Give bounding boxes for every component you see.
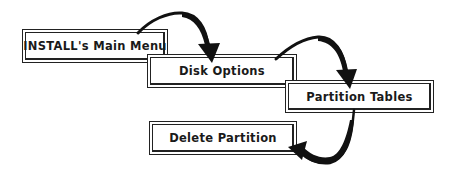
node-label: INSTALL's Main Menu [23,39,167,53]
node-disk-options: Disk Options [147,54,297,88]
node-label: Partition Tables [306,90,412,104]
curved-arrow-icon [288,110,354,164]
node-label: Delete Partition [169,131,277,145]
node-partition-tables: Partition Tables [285,80,434,113]
node-delete-partition: Delete Partition [149,121,297,155]
node-label: Disk Options [179,64,265,78]
